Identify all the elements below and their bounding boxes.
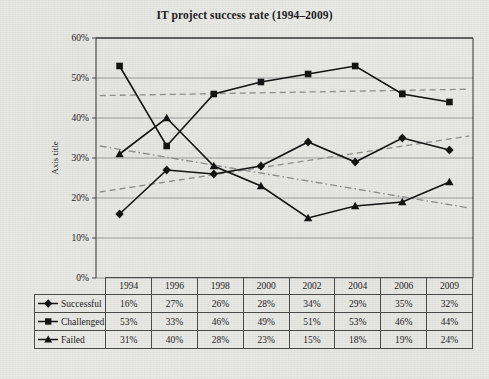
table-cell-value: 26% <box>197 295 243 313</box>
data-point-challenged <box>305 71 312 78</box>
table-cell-value: 16% <box>106 295 152 313</box>
y-axis-tick-label: 40% <box>72 113 90 123</box>
y-axis-tick-label: 30% <box>72 153 90 163</box>
y-axis-title: Axis title <box>50 141 60 174</box>
y-axis-tick-label: 50% <box>72 73 90 83</box>
data-point-successful <box>398 134 406 143</box>
trendline-failed <box>100 146 469 208</box>
data-point-successful <box>257 162 265 171</box>
table-cell-value: 29% <box>335 295 381 313</box>
data-point-challenged <box>399 91 406 98</box>
table-row: Successful16%27%26%28%34%29%35%32% <box>35 295 473 313</box>
data-point-challenged <box>211 91 218 98</box>
y-axis-tick-label: 60% <box>72 33 90 43</box>
legend-marker-diamond-icon <box>37 298 59 309</box>
trendline-successful <box>100 136 469 192</box>
table-cell-value: 34% <box>289 295 335 313</box>
legend-entry-challenged: Challenged <box>35 313 106 331</box>
legend-marker-triangle-icon <box>37 334 59 345</box>
data-point-challenged <box>446 99 453 106</box>
data-point-failed <box>162 114 170 121</box>
table-cell-value: 28% <box>197 331 243 349</box>
table-cell-value: 31% <box>106 331 152 349</box>
table-cell-value: 32% <box>427 295 473 313</box>
legend-label: Successful <box>59 299 102 309</box>
data-point-challenged <box>163 143 170 150</box>
table-cell-value: 18% <box>335 331 381 349</box>
table-row: Challenged53%33%46%49%51%53%46%44% <box>35 313 473 331</box>
data-point-successful <box>304 138 312 147</box>
table-cell-value: 49% <box>243 313 289 331</box>
table-cell-value: 40% <box>152 331 198 349</box>
table-cell-value: 53% <box>106 313 152 331</box>
table-cell-value: 15% <box>289 331 335 349</box>
legend-label: Failed <box>59 335 85 345</box>
column-header-year: 1994 <box>106 278 152 295</box>
data-point-challenged <box>352 63 359 70</box>
column-header-year: 1996 <box>152 278 198 295</box>
table-cell-value: 46% <box>381 313 427 331</box>
data-point-challenged <box>116 63 123 70</box>
y-axis-tick-label: 10% <box>72 233 90 243</box>
table-cell-value: 46% <box>197 313 243 331</box>
legend-entry-failed: Failed <box>35 331 106 349</box>
table-row: Failed31%40%28%23%15%18%19%24% <box>35 331 473 349</box>
data-point-successful <box>445 146 453 155</box>
table-cell-value: 35% <box>381 295 427 313</box>
table-cell-value: 51% <box>289 313 335 331</box>
legend-label: Challenged <box>59 317 104 327</box>
data-point-successful <box>351 158 359 167</box>
legend-entry-successful: Successful <box>35 295 106 313</box>
data-point-challenged <box>258 79 265 86</box>
table-cell-value: 33% <box>152 313 198 331</box>
table-cell-value: 23% <box>243 331 289 349</box>
column-header-year: 2006 <box>381 278 427 295</box>
table-cell-value: 53% <box>335 313 381 331</box>
table-cell-value: 44% <box>427 313 473 331</box>
table-cell-value: 19% <box>381 331 427 349</box>
column-header-year: 2004 <box>335 278 381 295</box>
table-cell-value: 28% <box>243 295 289 313</box>
column-header-year: 2000 <box>243 278 289 295</box>
data-table: 19941996199820002002200420062009Successf… <box>34 277 473 349</box>
data-point-failed <box>445 178 453 185</box>
column-header-year: 2009 <box>427 278 473 295</box>
table-header-row: 19941996199820002002200420062009 <box>35 278 473 295</box>
y-axis-tick-label: 20% <box>72 193 90 203</box>
column-header-year: 2002 <box>289 278 335 295</box>
legend-marker-square-icon <box>37 316 59 327</box>
data-point-successful <box>210 170 218 179</box>
table-cell-value: 27% <box>152 295 198 313</box>
trendline-challenged <box>100 89 469 95</box>
column-header-year: 1998 <box>197 278 243 295</box>
table-cell-value: 24% <box>427 331 473 349</box>
table-corner-cell <box>35 278 106 295</box>
